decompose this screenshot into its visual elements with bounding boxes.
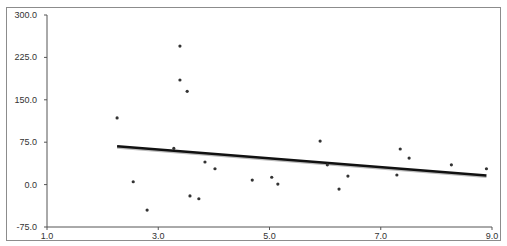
data-point bbox=[319, 139, 322, 142]
scatter-chart: 300.0225.0150.075.00.0-75.0 1.03.05.07.0… bbox=[0, 0, 507, 246]
data-point bbox=[395, 173, 398, 176]
x-tick-label: 1.0 bbox=[41, 231, 54, 241]
data-point bbox=[399, 147, 402, 150]
y-tick-label: 75.0 bbox=[19, 137, 37, 147]
data-point bbox=[326, 163, 329, 166]
data-point bbox=[450, 163, 453, 166]
data-point bbox=[188, 194, 191, 197]
data-point bbox=[276, 182, 279, 185]
data-point bbox=[408, 156, 411, 159]
data-point bbox=[203, 160, 206, 163]
x-axis-ticks: 1.03.05.07.09.0 bbox=[41, 227, 499, 241]
data-point bbox=[346, 175, 349, 178]
x-tick-label: 5.0 bbox=[263, 231, 276, 241]
trendline bbox=[117, 146, 486, 177]
x-tick-label: 3.0 bbox=[152, 231, 165, 241]
y-tick-label: 150.0 bbox=[14, 95, 37, 105]
y-tick-label: 0.0 bbox=[24, 180, 37, 190]
data-point bbox=[186, 90, 189, 93]
y-axis-ticks: 300.0225.0150.075.00.0-75.0 bbox=[14, 10, 47, 232]
data-point bbox=[197, 197, 200, 200]
data-points bbox=[115, 44, 488, 211]
data-point bbox=[213, 167, 216, 170]
x-tick-label: 7.0 bbox=[374, 231, 387, 241]
data-point bbox=[251, 178, 254, 181]
axes bbox=[47, 15, 492, 227]
y-tick-label: 225.0 bbox=[14, 52, 37, 62]
data-point bbox=[178, 44, 181, 47]
data-point bbox=[485, 167, 488, 170]
data-point bbox=[132, 180, 135, 183]
data-point bbox=[146, 208, 149, 211]
data-point bbox=[115, 116, 118, 119]
y-tick-label: 300.0 bbox=[14, 10, 37, 20]
data-point bbox=[270, 176, 273, 179]
data-point bbox=[178, 78, 181, 81]
y-tick-label: -75.0 bbox=[16, 222, 37, 232]
data-point bbox=[172, 147, 175, 150]
data-point bbox=[337, 188, 340, 191]
x-tick-label: 9.0 bbox=[486, 231, 499, 241]
